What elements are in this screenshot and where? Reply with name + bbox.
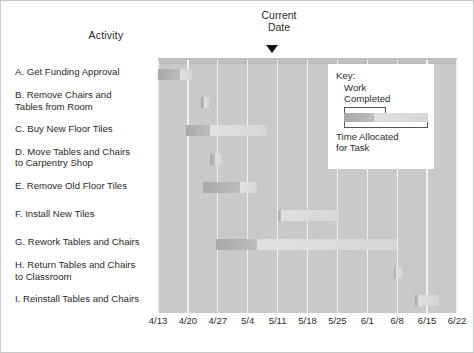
gantt-bar-F[interactable] [278,210,339,221]
x-axis-tick-labels: 4/134/204/275/45/115/185/256/16/86/156/2… [158,315,457,331]
bar-segment-allocated-E [240,182,256,193]
legend-key-box: Key: Work Completed Time Allocated for T… [328,64,434,169]
activity-label-B: B. Remove Chairs and Tables from Room [15,89,159,112]
gantt-bar-D[interactable] [210,154,222,165]
gantt-bar-B[interactable] [201,97,208,108]
bar-segment-completed-C [186,125,210,136]
legend-bracket-bottom [344,122,428,128]
activity-label-D: D. Move Tables and Chairs to Carpentry S… [15,146,159,169]
activity-label-G: G. Rework Tables and Chairs [15,236,159,248]
activity-label-I: I. Reinstall Tables and Chairs [15,293,159,305]
triangle-down-marker-icon [266,45,278,53]
bar-segment-completed-A [158,69,180,80]
gantt-bar-A[interactable] [158,69,192,80]
x-tick-6-8: 6/8 [391,315,404,326]
x-tick-5-18: 5/18 [298,315,317,326]
bar-segment-allocated-C [210,125,267,136]
legend-sample-bar [344,113,428,122]
current-date-line1: Current [244,9,314,21]
legend-work-line2: Completed [344,93,426,105]
legend-time-line2: for Task [336,142,426,154]
bar-segment-allocated-F [281,210,339,221]
current-date-line2: Date [244,21,314,33]
x-tick-5-11: 5/11 [269,315,287,326]
x-tick-4-13: 4/13 [149,315,168,326]
gantt-chart-page: Activity Current Date A. Get Funding App… [0,0,474,353]
activity-label-E: E. Remove Old Floor Tiles [15,180,159,192]
x-tick-4-20: 4/20 [179,315,198,326]
gridline-4-13 [157,60,158,313]
gantt-bar-H[interactable] [394,267,401,278]
bar-segment-completed-G [216,239,256,250]
gridline-5-11 [277,60,278,313]
legend-bracket-top [344,107,386,113]
legend-time-line1: Time Allocated [336,131,426,143]
bar-segment-allocated-I [418,295,439,306]
activity-label-A: A. Get Funding Approval [15,66,159,78]
activity-label-list: A. Get Funding ApprovalB. Remove Chairs … [15,58,155,313]
gantt-bar-C[interactable] [186,125,267,136]
gridline-6-22 [456,60,457,313]
legend-title: Key: [336,70,426,82]
activity-label-H: H. Return Tables and Chairs to Classroom [15,259,159,282]
gantt-bar-G[interactable] [216,239,397,250]
x-tick-6-1: 6/1 [361,315,374,326]
bar-segment-allocated-H [396,267,402,278]
gantt-bar-E[interactable] [203,182,257,193]
bar-segment-allocated-D [215,154,222,165]
x-tick-5-25: 5/25 [328,315,347,326]
bar-segment-allocated-B [204,97,208,108]
bar-segment-completed-E [203,182,240,193]
legend-work-line1: Work [344,82,426,94]
gridline-4-20 [187,60,188,313]
activity-column-header: Activity [61,29,151,41]
x-tick-6-15: 6/15 [418,315,437,326]
gantt-bar-I[interactable] [415,295,439,306]
x-tick-4-27: 4/27 [209,315,228,326]
activity-label-C: C. Buy New Floor Tiles [15,123,159,135]
activity-label-F: F. Install New Tiles [15,208,159,220]
current-date-label: Current Date [244,9,314,33]
legend-segment-allocated [374,113,428,122]
x-tick-5-4: 5/4 [241,315,254,326]
bar-segment-allocated-A [180,69,192,80]
legend-segment-completed [344,113,374,122]
bar-segment-allocated-G [257,239,398,250]
gridline-5-18 [307,60,308,313]
x-tick-6-22: 6/22 [448,315,467,326]
